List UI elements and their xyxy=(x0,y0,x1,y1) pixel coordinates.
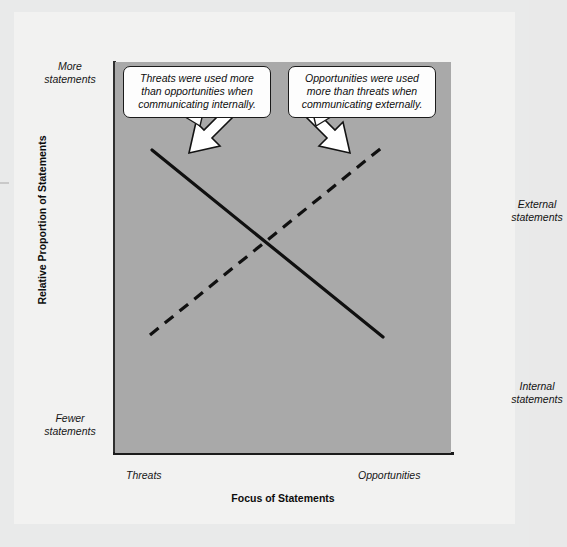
x-tick-opportunities: Opportunities xyxy=(358,469,468,482)
callout-opportunities-line2: more than threats when xyxy=(296,85,428,98)
y-tick-more-statements: More statements xyxy=(30,60,110,86)
series-label-external-line2: statements xyxy=(511,211,562,223)
y-axis-title: Relative Proportion of Statements xyxy=(36,135,48,305)
y-tick-more-line2: statements xyxy=(44,73,95,85)
callout-opportunities-line3: communicating externally. xyxy=(296,98,428,111)
x-axis-title: Focus of Statements xyxy=(115,492,451,504)
crop-mark xyxy=(0,182,9,184)
callout-threats: Threats were used more than opportunitie… xyxy=(123,66,271,118)
plot-area: External statements Internal statements xyxy=(115,62,451,453)
callout-threats-line3: communicating internally. xyxy=(131,98,263,111)
callout-threats-line1: Threats were used more xyxy=(131,72,263,85)
series-label-internal-line1: Internal xyxy=(519,380,554,392)
series-label-external: External statements xyxy=(501,198,567,224)
series-label-internal-line2: statements xyxy=(511,393,562,405)
callout-opportunities: Opportunities were used more than threat… xyxy=(288,66,436,118)
callout-arrows xyxy=(115,62,451,453)
y-tick-fewer-statements: Fewer statements xyxy=(30,412,110,438)
y-tick-fewer-line1: Fewer xyxy=(55,412,84,424)
callout-opportunities-line1: Opportunities were used xyxy=(296,72,428,85)
x-tick-threats: Threats xyxy=(126,469,212,482)
series-label-external-line1: External xyxy=(518,198,557,210)
callout-threats-line2: than opportunities when xyxy=(131,85,263,98)
y-tick-more-line1: More xyxy=(58,60,82,72)
series-label-internal: Internal statements xyxy=(501,380,567,406)
y-tick-fewer-line2: statements xyxy=(44,425,95,437)
